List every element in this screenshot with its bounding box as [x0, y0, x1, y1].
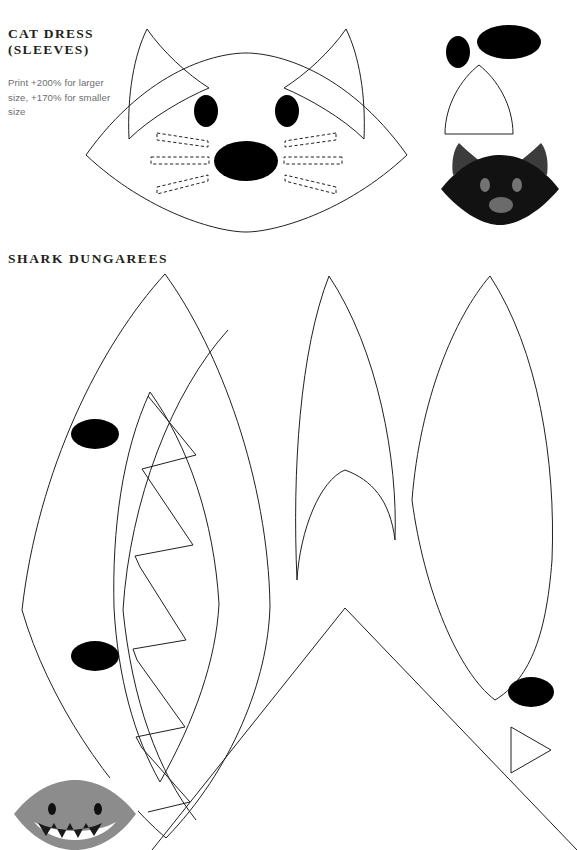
cat-whisker-left-upper — [157, 133, 208, 147]
shark-eye-lower — [71, 641, 119, 671]
pattern-sheet-page: CAT DRESS (SLEEVES) Print +200% for larg… — [0, 0, 577, 850]
cat-whisker-left-lower — [157, 175, 208, 194]
print-scaling-instructions: Print +200% for larger size, +170% for s… — [8, 76, 120, 120]
shark-head-panel-outline — [22, 274, 270, 838]
cat-dress-section-title: CAT DRESS (SLEEVES) — [8, 26, 94, 58]
cat-whisker-right-upper — [285, 133, 336, 147]
shark-fin-template — [511, 727, 551, 773]
cat-whisker-right-lower — [285, 175, 336, 194]
cat-ear-right-outline — [284, 29, 364, 139]
cat-ear-left-outline — [129, 29, 209, 139]
shark-mouth-outline — [114, 392, 219, 782]
shark-body-panel-middle-outline — [296, 276, 396, 580]
pattern-artwork — [0, 0, 577, 850]
shark-eye-upper — [71, 419, 119, 449]
shark-teeth-zigzag — [133, 396, 196, 812]
shark-body-panel-right-outline — [412, 276, 553, 700]
shark-bib-photo — [12, 778, 138, 850]
cat-eye-left — [194, 95, 218, 127]
cat-face-mask-outline — [86, 53, 407, 232]
cat-whisker-right-middle — [284, 157, 342, 164]
shark-tail-fin-outline — [152, 608, 577, 850]
cat-nose-template — [477, 25, 541, 59]
cat-ear-template-outline — [445, 65, 513, 134]
shark-head-inner-seam — [123, 330, 228, 820]
shark-eye-template — [508, 677, 554, 707]
shark-dungarees-section-title: SHARK DUNGAREES — [8, 251, 168, 267]
cat-nose — [214, 141, 278, 181]
cat-eye-right — [275, 95, 299, 127]
cat-whisker-left-middle — [151, 157, 209, 164]
cat-eye-template — [446, 36, 470, 68]
cat-mask-photo — [437, 141, 563, 229]
